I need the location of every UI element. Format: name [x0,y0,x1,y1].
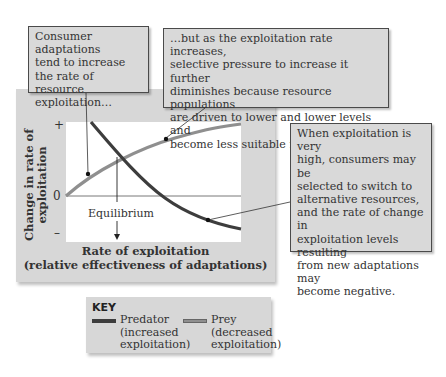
y-tick-minus: – [54,226,60,240]
callout-selective-pressure: …but as the exploitation rate increases,… [163,28,389,108]
y-axis-label-line2: exploitation [36,125,49,245]
key-title: KEY [92,301,116,314]
callout-very-high-text: When exploitation is very high, consumer… [297,127,425,299]
x-axis-label: Rate of exploitation (relative effective… [16,244,275,272]
equilibrium-label: Equilibrium [88,207,154,220]
callout-very-high-exploitation: When exploitation is very high, consumer… [290,123,432,252]
equilibrium-arrowhead [114,234,120,240]
y-tick-plus: + [54,118,64,132]
prey-swatch [183,319,207,323]
callout-consumer-adaptations: Consumer adaptations tend to increase th… [28,26,149,93]
x-axis-label-line2: (relative effectiveness of adaptations) [16,258,275,272]
callout-consumer-adaptations-text: Consumer adaptations tend to increase th… [35,30,142,109]
key-item-prey: Prey (decreased exploitation) [211,314,281,352]
legend-key: KEY Predator (increased exploitation) Pr… [86,297,271,353]
key-item-predator: Predator (increased exploitation) [120,314,190,352]
x-axis-label-line1: Rate of exploitation [16,244,275,258]
y-tick-zero: 0 [53,189,61,203]
y-axis-label: Change in rate of exploitation [23,125,49,245]
predator-swatch [92,319,116,323]
